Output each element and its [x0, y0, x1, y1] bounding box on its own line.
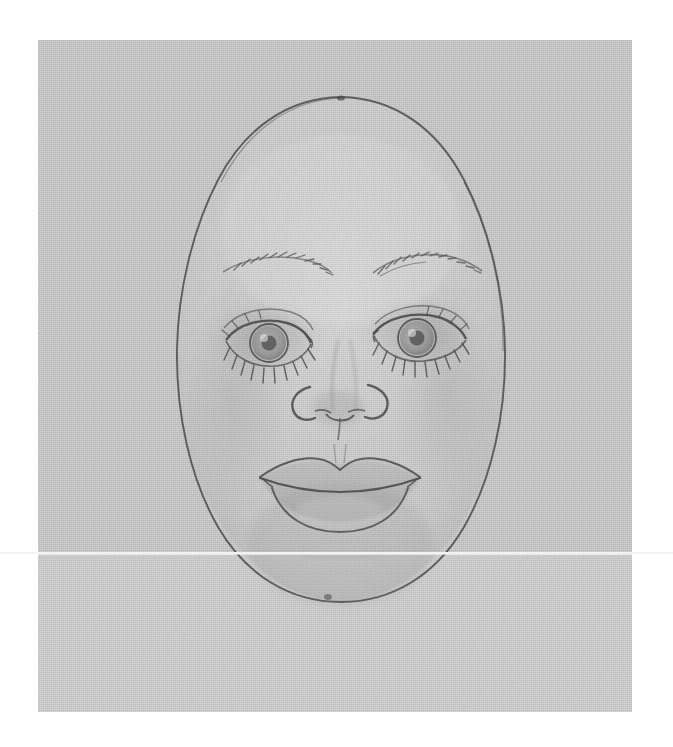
scan-seam-line — [0, 552, 673, 554]
pencil-drawing-layer — [38, 40, 632, 712]
doll-face-drawing — [38, 40, 632, 712]
scanned-image-canvas — [0, 0, 673, 747]
paper-sheet — [38, 40, 632, 712]
